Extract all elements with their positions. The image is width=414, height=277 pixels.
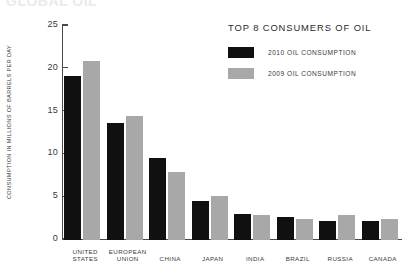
bar: [362, 221, 379, 240]
bar-group: [63, 25, 106, 240]
bar: [107, 123, 124, 240]
bar: [319, 221, 336, 240]
x-axis-category-label-line: EUROPEAN: [101, 248, 155, 256]
bar-group: [148, 25, 191, 240]
bar: [277, 217, 294, 240]
bar: [83, 61, 100, 240]
legend-title: TOP 8 CONSUMERS OF OIL: [228, 22, 371, 33]
bar: [149, 158, 166, 240]
bar: [64, 76, 81, 240]
bar-group: [191, 25, 234, 240]
legend-label: 2009 OIL CONSUMPTION: [268, 70, 356, 77]
legend-swatch: [228, 47, 254, 58]
bar: [381, 219, 398, 240]
x-axis-category-label-line: CANADA: [356, 255, 410, 263]
legend-swatch: [228, 68, 254, 79]
bar: [168, 172, 185, 240]
bar: [338, 215, 355, 240]
y-axis-tick-label: 0: [34, 233, 58, 243]
bar: [253, 215, 270, 240]
y-axis-tick-label: 10: [34, 147, 58, 157]
legend-label: 2010 OIL CONSUMPTION: [268, 49, 356, 56]
bar: [296, 219, 313, 240]
y-axis-tick-label: 20: [34, 62, 58, 72]
legend-entries: 2010 OIL CONSUMPTION2009 OIL CONSUMPTION: [228, 47, 371, 79]
bar: [211, 196, 228, 240]
y-axis-tick-label: 5: [34, 190, 58, 200]
bar-group: [106, 25, 149, 240]
bar: [234, 214, 251, 240]
y-axis-tick-label: 15: [34, 105, 58, 115]
chart-legend: TOP 8 CONSUMERS OF OIL 2010 OIL CONSUMPT…: [228, 22, 371, 89]
bar: [192, 201, 209, 240]
bar: [126, 116, 143, 240]
legend-entry: 2010 OIL CONSUMPTION: [228, 47, 371, 58]
y-axis-tick-label: 25: [34, 19, 58, 29]
legend-entry: 2009 OIL CONSUMPTION: [228, 68, 371, 79]
x-axis-category-label: CANADA: [356, 255, 410, 263]
